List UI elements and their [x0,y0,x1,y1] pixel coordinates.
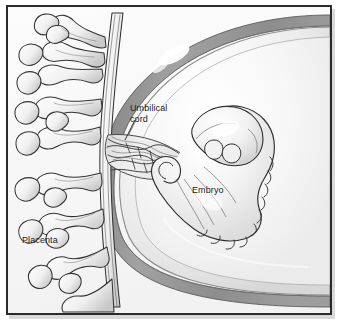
figure-root: Umbilical cord Embryo Placenta [0,0,340,324]
label-umbilical-cord: Umbilical cord [130,103,167,124]
label-embryo: Embryo [192,185,224,196]
figure-frame: Umbilical cord Embryo Placenta [6,5,332,315]
limb-bud-lower [222,144,241,163]
limb-bud-upper [205,140,223,159]
label-placenta: Placenta [22,235,58,246]
embryo-placenta-illustration [8,7,330,313]
